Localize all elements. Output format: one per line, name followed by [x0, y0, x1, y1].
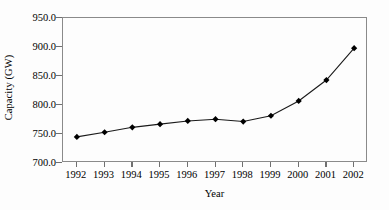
x-tick-mark — [104, 162, 105, 167]
x-tick-label: 1997 — [204, 169, 225, 180]
data-point-marker — [129, 124, 135, 130]
x-tick-label: 1993 — [93, 169, 114, 180]
x-tick-label: 1994 — [121, 169, 142, 180]
x-tick-mark — [159, 162, 160, 167]
x-tick-label: 2000 — [287, 169, 308, 180]
x-tick-label: 2001 — [315, 169, 336, 180]
y-tick-label: 700.0 — [32, 157, 56, 168]
data-point-marker — [185, 118, 191, 124]
y-axis-title: Capacity (GW) — [0, 0, 18, 175]
y-tick-label: 750.0 — [32, 128, 56, 139]
data-point-marker — [240, 118, 246, 124]
x-tick-mark — [131, 162, 132, 167]
x-tick-label: 1992 — [65, 169, 86, 180]
data-point-marker — [74, 134, 80, 140]
x-axis-tick-labels: 1992199319941995199619971998199920002001… — [62, 169, 367, 185]
plot-area — [62, 17, 367, 162]
x-tick-label: 1999 — [259, 169, 280, 180]
x-tick-mark — [298, 162, 299, 167]
x-tick-mark — [270, 162, 271, 167]
y-axis-title-label: Capacity (GW) — [4, 55, 15, 121]
series-plot — [63, 18, 368, 163]
x-tick-mark — [215, 162, 216, 167]
x-tick-mark — [76, 162, 77, 167]
y-tick-label: 900.0 — [32, 41, 56, 52]
chart-container: Capacity (GW) 700.0750.0800.0850.0900.09… — [0, 0, 389, 210]
x-axis-title-label: Year — [205, 188, 224, 199]
x-axis-title: Year — [62, 188, 367, 199]
y-tick-label: 850.0 — [32, 70, 56, 81]
x-tick-label: 2002 — [343, 169, 364, 180]
y-tick-label: 950.0 — [32, 12, 56, 23]
y-tick-label: 800.0 — [32, 99, 56, 110]
data-point-marker — [101, 129, 107, 135]
x-tick-mark — [187, 162, 188, 167]
x-tick-mark — [353, 162, 354, 167]
x-tick-mark — [242, 162, 243, 167]
x-tick-label: 1996 — [176, 169, 197, 180]
y-tick-mark — [56, 162, 62, 163]
x-tick-mark — [325, 162, 326, 167]
y-axis-tick-labels: 700.0750.0800.0850.0900.0950.0 — [18, 17, 60, 162]
x-tick-label: 1995 — [149, 169, 170, 180]
series-line — [77, 48, 354, 137]
data-point-marker — [157, 121, 163, 127]
data-point-marker — [268, 113, 274, 119]
x-tick-label: 1998 — [232, 169, 253, 180]
data-point-marker — [212, 116, 218, 122]
